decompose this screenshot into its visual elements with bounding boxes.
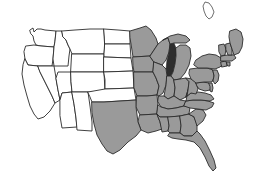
- state-arkansas[interactable]: [136, 95, 158, 115]
- state-oregon[interactable]: [24, 45, 54, 66]
- state-wyoming[interactable]: [71, 54, 104, 72]
- state-rhode-island[interactable]: [227, 62, 230, 66]
- state-north-dakota[interactable]: [104, 29, 130, 44]
- state-new-york[interactable]: [194, 54, 224, 69]
- state-nebraska[interactable]: [104, 57, 133, 72]
- state-iowa[interactable]: [133, 56, 154, 72]
- state-connecticut[interactable]: [221, 61, 227, 67]
- state-new-jersey[interactable]: [213, 70, 219, 84]
- state-south-dakota[interactable]: [104, 44, 131, 58]
- state-colorado[interactable]: [71, 72, 105, 92]
- us-states-map: [0, 0, 255, 188]
- canada-boundary-outline: [203, 2, 214, 19]
- us-map-container: [0, 0, 255, 188]
- state-alabama[interactable]: [168, 116, 181, 133]
- state-delaware[interactable]: [209, 83, 213, 92]
- state-pennsylvania[interactable]: [189, 68, 214, 83]
- state-kansas[interactable]: [104, 71, 134, 89]
- state-florida[interactable]: [168, 131, 216, 171]
- state-texas[interactable]: [92, 100, 141, 154]
- state-washington[interactable]: [30, 28, 56, 47]
- state-vermont[interactable]: [219, 44, 226, 56]
